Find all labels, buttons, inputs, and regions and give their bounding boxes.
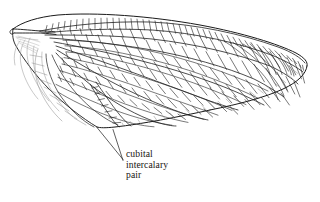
basal-membrane-hatch: [17, 36, 40, 53]
wing-outline-hind-margin: [97, 110, 210, 128]
vein-radius-1: [45, 35, 298, 84]
cubital-intercalary-label: cubital intercalary pair: [126, 149, 168, 181]
median-field-mesh-row2: [66, 53, 254, 110]
wing-base-stalk-notch: [10, 29, 14, 34]
label-line-1: cubital: [126, 149, 168, 160]
vein-costa: [40, 22, 305, 63]
wing-base-stalk-upper: [13, 29, 40, 31]
vein-anal-1: [52, 55, 118, 125]
wing-figure: cubital intercalary pair: [0, 0, 320, 202]
wing-membrane-group: [10, 14, 307, 128]
label-line-3: pair: [126, 170, 168, 181]
radial-crossveins-row1: [62, 34, 300, 97]
